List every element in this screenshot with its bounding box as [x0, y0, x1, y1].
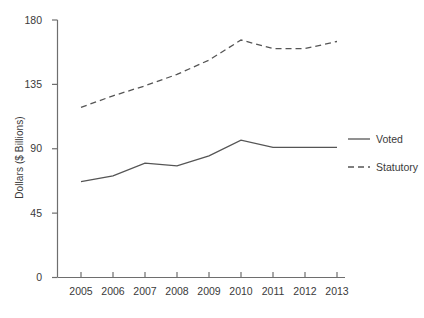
x-axis-ticks [81, 272, 337, 278]
series-lines [81, 40, 337, 182]
y-axis-ticks [52, 20, 58, 278]
plot-area [0, 0, 424, 318]
line-chart: Dollars ($ Billions) 180 135 90 45 0 200… [0, 0, 424, 318]
axes [52, 20, 345, 278]
legend-label-statutory: Statutory [376, 161, 418, 173]
legend-label-voted: Voted [376, 133, 403, 145]
series-line-voted [81, 140, 337, 182]
series-line-statutory [81, 40, 337, 107]
legend-swatches [348, 139, 370, 167]
